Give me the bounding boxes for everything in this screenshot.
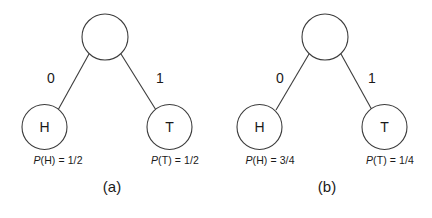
panel-a-caption: (a) <box>103 178 121 195</box>
tree-diagram-canvas: H T 0 1 H T 0 1 <box>0 0 432 218</box>
panel-b-probability-h: P(H) = 3/4 <box>245 154 294 166</box>
panel-b-branch-label-right: 1 <box>368 70 376 86</box>
panel-b-group: H T 0 1 <box>237 14 407 150</box>
panel-a-prob-value-h: (H) = 1/2 <box>41 154 83 166</box>
panel-b-branch-label-left: 0 <box>276 70 284 86</box>
panel-a-leaf-label-h: H <box>39 119 49 135</box>
panel-a-group: H T 0 1 <box>22 14 192 150</box>
panel-a-branch-label-right: 1 <box>156 70 164 86</box>
panel-b-probability-t: P(T) = 1/4 <box>366 154 414 166</box>
panel-b-prob-value-t: (T) = 1/4 <box>373 154 414 166</box>
panel-a-left-branch <box>58 54 89 110</box>
panel-a-right-branch <box>121 54 156 110</box>
probability-tree-figure: H T 0 1 H T 0 1 P(H) = 1/2 P(T) = 1/2 P(… <box>0 0 432 218</box>
panel-a-branch-label-left: 0 <box>47 70 55 86</box>
panel-b-caption: (b) <box>318 178 336 195</box>
panel-b-root-node <box>302 14 348 60</box>
panel-b-leaf-label-t: T <box>380 119 389 135</box>
panel-a-prob-value-t: (T) = 1/2 <box>158 154 199 166</box>
panel-a-probability-t: P(T) = 1/2 <box>151 154 199 166</box>
panel-b-prob-value-h: (H) = 3/4 <box>253 154 295 166</box>
panel-a-leaf-label-t: T <box>165 119 174 135</box>
panel-a-root-node <box>82 14 128 60</box>
panel-a-probability-h: P(H) = 1/2 <box>33 154 82 166</box>
panel-b-leaf-label-h: H <box>254 119 264 135</box>
